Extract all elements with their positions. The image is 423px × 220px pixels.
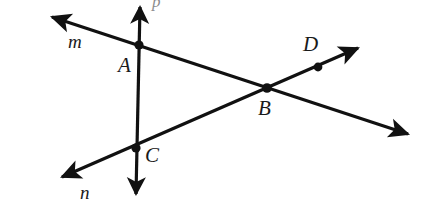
- point-b-dot: [262, 83, 272, 93]
- line-label-p: p: [152, 0, 161, 10]
- point-label-d: D: [303, 34, 318, 55]
- geometry-figure: m n p A B C D: [0, 0, 423, 220]
- line-label-m: m: [68, 32, 82, 51]
- point-label-c: C: [145, 145, 159, 166]
- point-label-a: A: [118, 55, 131, 76]
- point-a-dot: [134, 40, 143, 49]
- geometry-canvas: [0, 0, 423, 220]
- point-label-b: B: [258, 98, 271, 119]
- point-c-dot: [131, 143, 140, 152]
- line-label-n: n: [80, 183, 90, 202]
- point-d-dot: [314, 63, 323, 72]
- figure-background: [0, 0, 423, 220]
